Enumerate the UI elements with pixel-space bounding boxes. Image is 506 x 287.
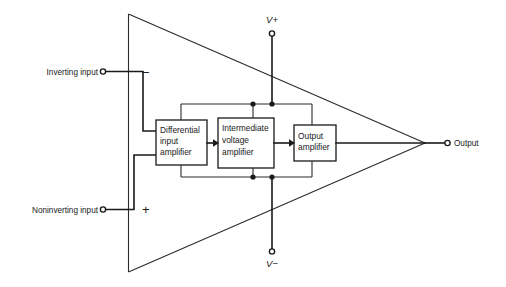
- top-bus-junction-supply: [269, 101, 274, 106]
- intermediate-voltage-amplifier-line-3: amplifier: [222, 147, 254, 157]
- bottom-bus-junction-supply: [269, 174, 274, 179]
- noninverting-input-label: Noninverting input: [32, 206, 99, 215]
- differential-input-amplifier-line-2: input: [160, 136, 179, 146]
- output-amplifier-line-2: amplifier: [298, 142, 330, 152]
- output-amplifier-block[interactable]: Output amplifier: [294, 125, 336, 161]
- bottom-bus-junction-intermediate: [250, 174, 255, 179]
- positive-supply-terminal[interactable]: [269, 31, 274, 36]
- output-amplifier-line-1: Output: [298, 131, 324, 141]
- inverting-input-wire: [105, 72, 156, 132]
- inverting-input-sign: −: [142, 65, 150, 80]
- differential-input-amplifier-block[interactable]: Differential input amplifier: [156, 120, 207, 165]
- top-bus-junction-intermediate: [250, 101, 255, 106]
- noninverting-input-sign: +: [142, 202, 150, 217]
- differential-input-amplifier-line-3: amplifier: [160, 147, 192, 157]
- negative-supply-label: V−: [266, 258, 278, 269]
- inverting-input-terminal[interactable]: [100, 69, 105, 74]
- intermediate-voltage-amplifier-line-1: Intermediate: [222, 123, 269, 133]
- positive-supply-label: V+: [266, 14, 278, 25]
- negative-supply-terminal[interactable]: [269, 249, 274, 254]
- signal-path-intermediate-to-output: [274, 139, 295, 147]
- inverting-input-path: [105, 72, 156, 132]
- opamp-block-diagram-figure: Inverting input − Noninverting input + V…: [0, 0, 506, 287]
- output-label: Output: [454, 139, 479, 148]
- signal-path-diff-to-intermediate: [207, 139, 219, 147]
- noninverting-input-terminal[interactable]: [100, 207, 105, 212]
- intermediate-voltage-amplifier-block[interactable]: Intermediate voltage amplifier: [218, 118, 274, 168]
- output-terminal[interactable]: [445, 140, 450, 145]
- differential-input-amplifier-line-1: Differential: [160, 125, 200, 135]
- diagram-canvas: Inverting input − Noninverting input + V…: [0, 0, 506, 287]
- intermediate-voltage-amplifier-line-2: voltage: [222, 135, 249, 145]
- inverting-input-label: Inverting input: [47, 68, 99, 77]
